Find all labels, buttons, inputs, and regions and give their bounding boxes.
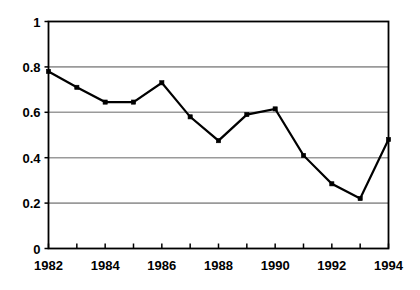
gridlines	[49, 67, 389, 203]
y-axis-tick-label: 1	[33, 15, 40, 28]
plot-svg	[0, 0, 420, 290]
x-axis-tick-label: 1988	[204, 259, 233, 272]
x-axis-tick-label: 1986	[147, 259, 176, 272]
data-point-marker	[301, 153, 305, 157]
x-axis-tick-label: 1984	[91, 259, 120, 272]
data-point-marker	[188, 115, 192, 119]
data-point-marker	[245, 112, 249, 116]
data-point-marker	[358, 196, 362, 200]
data-point-marker	[46, 69, 50, 73]
x-axis-tick-label: 1994	[374, 259, 403, 272]
data-point-marker	[75, 85, 79, 89]
y-axis-tick-label: 0.6	[22, 106, 40, 119]
data-point-marker	[330, 182, 334, 186]
series-line	[49, 71, 389, 198]
data-point-marker	[386, 137, 390, 141]
data-markers	[46, 69, 390, 200]
plot-frame	[49, 22, 389, 249]
data-point-marker	[160, 81, 164, 85]
data-point-marker	[131, 100, 135, 104]
data-point-marker	[216, 139, 220, 143]
data-point-marker	[273, 107, 277, 111]
y-axis-tick-label: 0.8	[22, 60, 40, 73]
data-point-marker	[103, 100, 107, 104]
y-axis-tick-label: 0.2	[22, 197, 40, 210]
x-axis-tick-label: 1982	[34, 259, 63, 272]
data-line	[49, 71, 389, 198]
y-axis-tick-label: 0.4	[22, 151, 40, 164]
x-axis-tick-label: 1992	[317, 259, 346, 272]
plot-border	[49, 22, 389, 249]
line-chart: 00.20.40.60.81 1982198419861988199019921…	[0, 0, 420, 290]
y-axis-tick-label: 0	[33, 242, 40, 255]
x-axis-tick-label: 1990	[261, 259, 290, 272]
